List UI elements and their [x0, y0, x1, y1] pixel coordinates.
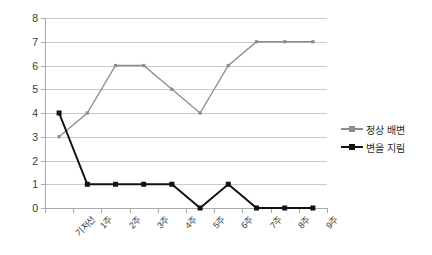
legend-marker-soiling-icon: [341, 142, 363, 152]
y-axis-tick: [41, 137, 45, 138]
plot-area: [45, 18, 327, 208]
y-axis-tick-label: 2: [8, 155, 38, 166]
y-axis-tick-label: 1: [8, 179, 38, 190]
gridline: [45, 18, 327, 19]
x-axis-tick-label: 5주: [212, 215, 228, 231]
legend-item-normal: 정상 배변: [341, 120, 431, 138]
y-axis-line: [45, 18, 46, 209]
x-axis-tick-label: 7주: [268, 215, 284, 231]
y-axis-tick-label: 7: [8, 37, 38, 48]
x-axis-tick: [158, 209, 159, 213]
x-axis-tick-label: 8주: [296, 215, 312, 231]
y-axis-tick-label: 4: [8, 108, 38, 119]
x-axis-tick-label: 6주: [240, 215, 256, 231]
legend-item-soiling: 변을 지림: [341, 138, 431, 156]
x-axis-tick-label: 기저선: [74, 215, 97, 238]
gridline: [45, 161, 327, 162]
x-axis-tick-label: 3주: [155, 215, 171, 231]
y-axis-tick-label: 3: [8, 132, 38, 143]
y-axis-tick: [41, 184, 45, 185]
y-axis-tick-label: 5: [8, 84, 38, 95]
legend-label-normal: 정상 배변: [363, 122, 405, 137]
gridline: [45, 89, 327, 90]
x-axis-tick-label: 2주: [127, 215, 143, 231]
chart-legend: 정상 배변 변을 지림: [341, 120, 431, 156]
y-axis-tick: [41, 161, 45, 162]
x-axis-tick: [101, 209, 102, 213]
legend-marker-normal-icon: [341, 124, 363, 134]
y-axis-tick: [41, 42, 45, 43]
y-axis-tick: [41, 18, 45, 19]
gridline: [45, 42, 327, 43]
x-axis-tick: [299, 209, 300, 213]
gridline: [45, 66, 327, 67]
y-axis-tick: [41, 89, 45, 90]
gridline: [45, 184, 327, 185]
x-axis-tick: [242, 209, 243, 213]
x-axis-tick: [214, 209, 215, 213]
y-axis-tick: [41, 66, 45, 67]
legend-label-soiling: 변을 지림: [363, 140, 405, 155]
y-axis-tick-label: 8: [8, 13, 38, 24]
gridline: [45, 113, 327, 114]
y-axis-tick-label: 0: [8, 203, 38, 214]
y-axis-labels: 876543210: [0, 0, 38, 255]
x-axis-tick: [327, 209, 328, 213]
x-axis-tick: [186, 209, 187, 213]
gridline: [45, 137, 327, 138]
line-chart: 876543210 기저선1주2주3주4주5주6주7주8주9주 정상 배변 변을…: [0, 0, 432, 255]
x-axis-tick: [271, 209, 272, 213]
x-axis-tick-label: 1주: [99, 215, 115, 231]
x-axis-tick-label: 4주: [184, 215, 200, 231]
x-axis-tick-label: 9주: [325, 215, 341, 231]
x-axis-tick: [73, 209, 74, 213]
y-axis-tick-label: 6: [8, 60, 38, 71]
y-axis-tick: [41, 113, 45, 114]
x-axis-tick: [45, 209, 46, 213]
x-axis-tick: [130, 209, 131, 213]
